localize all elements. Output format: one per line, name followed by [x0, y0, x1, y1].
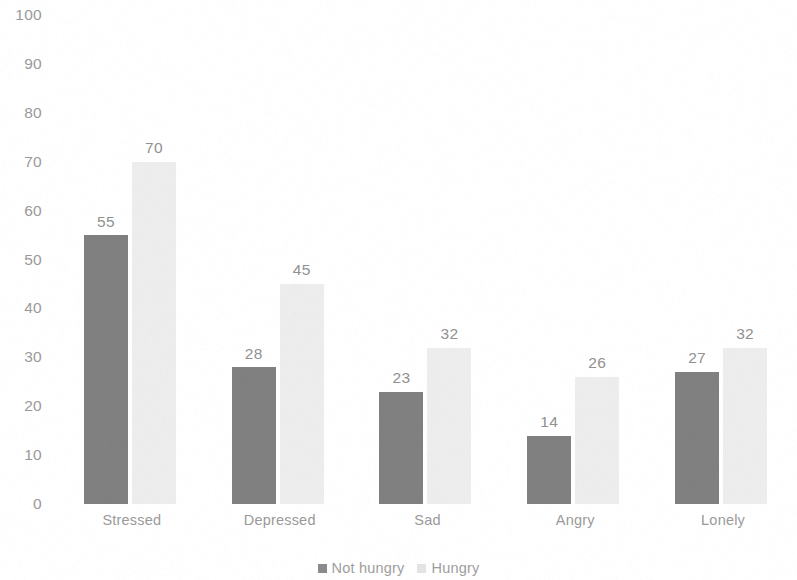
bar-rect-hungry [427, 348, 471, 504]
x-axis-category-label: Sad [414, 513, 440, 528]
x-axis-category-label: Stressed [102, 513, 161, 528]
y-axis-tick-label: 100 [0, 7, 42, 23]
bar-value-label: 45 [293, 262, 311, 278]
bar: 23 [379, 392, 423, 504]
y-axis-tick-label: 50 [0, 252, 42, 268]
bar: 32 [427, 348, 471, 504]
x-axis-category-label: Lonely [701, 513, 745, 528]
legend-swatch-not-hungry-icon [318, 564, 327, 573]
bar-rect-not-hungry [232, 367, 276, 504]
bar-group: 1426Angry [501, 0, 649, 580]
legend-item: Hungry [417, 561, 479, 576]
bar-value-label: 28 [245, 346, 263, 362]
bar-rect-hungry [575, 377, 619, 504]
bar-group: 2332Sad [354, 0, 502, 580]
bar-value-label: 14 [540, 414, 558, 430]
bar-rect-hungry [132, 162, 176, 504]
bar-rect-not-hungry [84, 235, 128, 504]
x-axis-category-label: Depressed [244, 513, 316, 528]
bar-chart: 1009080706050403020100 5570Stressed2845D… [0, 0, 797, 580]
bar: 45 [280, 284, 324, 504]
plot-area: 5570Stressed2845Depressed2332Sad1426Angr… [58, 0, 797, 580]
bar-value-label: 26 [588, 355, 606, 371]
y-axis-tick-label: 30 [0, 349, 42, 365]
bar-value-label: 70 [145, 140, 163, 156]
bar: 70 [132, 162, 176, 504]
bar-value-label: 55 [97, 214, 115, 230]
bar-value-label: 32 [736, 326, 754, 342]
y-axis-tick-label: 60 [0, 203, 42, 219]
legend-item: Not hungry [318, 561, 405, 576]
x-axis-category-label: Angry [556, 513, 595, 528]
bar-group: 2732Lonely [649, 0, 797, 580]
bar-group: 5570Stressed [58, 0, 206, 580]
bar-rect-hungry [723, 348, 767, 504]
bar: 27 [675, 372, 719, 504]
bar-value-label: 27 [688, 350, 706, 366]
bar-groups: 5570Stressed2845Depressed2332Sad1426Angr… [58, 0, 797, 580]
bar: 28 [232, 367, 276, 504]
bar-rect-hungry [280, 284, 324, 504]
y-axis-tick-label: 80 [0, 105, 42, 121]
bar-value-label: 23 [393, 370, 411, 386]
y-axis-tick-label: 10 [0, 447, 42, 463]
y-axis-tick-label: 20 [0, 398, 42, 414]
y-axis: 1009080706050403020100 [0, 0, 58, 580]
legend-label: Hungry [431, 561, 479, 576]
chart-legend: Not hungryHungry [0, 559, 797, 577]
legend-swatch-hungry-icon [417, 564, 426, 573]
bar-rect-not-hungry [379, 392, 423, 504]
y-axis-tick-label: 90 [0, 56, 42, 72]
legend-label: Not hungry [332, 561, 405, 576]
bar: 55 [84, 235, 128, 504]
bar: 14 [527, 436, 571, 504]
bar-group: 2845Depressed [206, 0, 354, 580]
y-axis-tick-label: 40 [0, 300, 42, 316]
bar: 32 [723, 348, 767, 504]
bar: 26 [575, 377, 619, 504]
y-axis-tick-label: 0 [0, 496, 42, 512]
bar-rect-not-hungry [675, 372, 719, 504]
bar-value-label: 32 [441, 326, 459, 342]
y-axis-tick-label: 70 [0, 154, 42, 170]
bar-rect-not-hungry [527, 436, 571, 504]
